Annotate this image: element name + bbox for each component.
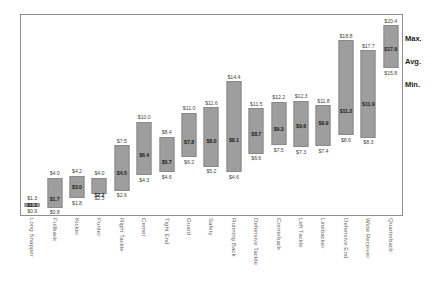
category-label-text: Punter (96, 218, 102, 236)
bar-column[interactable]: $1.3$0.9$1.1 (21, 15, 43, 215)
category-label: Defensive End (335, 218, 357, 302)
max-value-label: $4.0 (94, 170, 104, 176)
range-bar[interactable] (182, 113, 197, 158)
category-label: Quarterback (380, 218, 402, 302)
min-value-label: $6.2 (184, 159, 194, 165)
range-bar[interactable] (271, 102, 286, 146)
avg-value-label: $8.0 (206, 138, 216, 144)
category-label: Center (133, 218, 155, 302)
bar-column[interactable]: $11.5$6.6$8.7 (245, 15, 267, 215)
category-label-text: Defensive End (343, 218, 349, 258)
avg-value-label: $11.2 (340, 108, 352, 114)
min-value-label: $0.9 (27, 208, 37, 214)
bar-column[interactable]: $4.0$0.8$1.7 (43, 15, 65, 215)
category-label: Defensive Tackle (245, 218, 267, 302)
category-label-text: Fullback (52, 218, 58, 241)
min-value-label: $4.3 (139, 177, 149, 183)
category-label-text: Tight End (164, 218, 170, 244)
bar-column[interactable]: $11.8$7.4$9.9 (312, 15, 334, 215)
min-value-label: $7.3 (296, 149, 306, 155)
category-label: Guard (178, 218, 200, 302)
max-value-label: $10.0 (138, 114, 151, 120)
max-value-label: $7.5 (117, 138, 127, 144)
avg-value-label: $9.6 (296, 123, 306, 129)
bar-column[interactable]: $8.4$4.6$5.7 (155, 15, 177, 215)
category-label: Kicker (66, 218, 88, 302)
category-label-text: Guard (186, 218, 192, 235)
max-value-label: $11.6 (205, 100, 217, 106)
category-label-text: Quarterback (388, 218, 394, 252)
bar-column[interactable]: $10.0$4.3$6.4 (133, 15, 155, 215)
legend-item-max: Max. (405, 34, 435, 43)
range-bar[interactable] (226, 81, 241, 172)
max-value-label: $11.0 (183, 105, 195, 111)
chart-root: $1.3$0.9$1.1$4.0$0.8$1.7$4.2$1.8$3.0$4.0… (0, 0, 435, 303)
max-value-label: $11.8 (317, 98, 329, 104)
bar-column[interactable]: $17.7$8.3$11.9 (357, 15, 379, 215)
min-value-label: $1.8 (72, 200, 82, 206)
range-bar[interactable] (47, 178, 62, 208)
bar-column[interactable]: $14.4$4.6$8.1 (223, 15, 245, 215)
category-label-text: Kicker (74, 218, 80, 235)
category-label-text: Right Tackle (119, 218, 125, 252)
max-value-label: $4.0 (50, 170, 60, 176)
max-value-label: $12.3 (295, 93, 308, 99)
min-value-label: $8.3 (363, 139, 373, 145)
avg-value-label: $6.4 (139, 152, 149, 158)
avg-value-label: $11.9 (362, 101, 374, 107)
min-value-label: $4.6 (162, 174, 172, 180)
bar-column[interactable]: $20.4$15.8$17.9 (380, 15, 402, 215)
range-bar[interactable] (137, 122, 152, 175)
avg-value-label: $4.5 (117, 170, 127, 176)
avg-value-label: $1.7 (50, 196, 60, 202)
min-value-label: $2.6 (117, 192, 127, 198)
min-value-label: $6.6 (251, 155, 261, 161)
category-label: Linebacker (312, 218, 334, 302)
bar-column[interactable]: $12.2$7.5$9.3 (267, 15, 289, 215)
range-bar[interactable] (114, 145, 129, 191)
category-label: Tight End (155, 218, 177, 302)
category-label-text: Running Back (231, 218, 237, 257)
min-value-label: $0.8 (50, 209, 60, 215)
bar-column[interactable]: $4.0$2.3$2.2 (88, 15, 110, 215)
avg-value-label: $3.0 (72, 184, 82, 190)
avg-value-label: $8.1 (229, 137, 239, 143)
category-label-text: Long Snapper (29, 218, 35, 257)
avg-value-label: $8.7 (251, 131, 261, 137)
min-value-label: $5.2 (206, 168, 216, 174)
max-value-label: $4.2 (72, 168, 82, 174)
bar-column[interactable]: $11.0$6.2$7.8 (178, 15, 200, 215)
max-value-label: $18.8 (340, 33, 353, 39)
range-bar[interactable] (361, 50, 376, 137)
category-label: Cornerback (267, 218, 289, 302)
max-value-label: $8.4 (162, 129, 172, 135)
bar-column[interactable]: $7.5$2.6$4.5 (111, 15, 133, 215)
category-label: Long Snapper (21, 218, 43, 302)
legend-item-avg: Avg. (405, 57, 435, 66)
chart-legend: Max. Avg. Min. (405, 34, 435, 103)
bar-column[interactable]: $11.6$5.2$8.0 (200, 15, 222, 215)
avg-value-label: $1.1 (27, 202, 37, 208)
category-label-text: Center (141, 218, 147, 237)
bar-column[interactable]: $12.3$7.3$9.6 (290, 15, 312, 215)
max-value-label: $14.4 (227, 74, 240, 80)
min-value-label: $7.4 (319, 148, 329, 154)
bar-column[interactable]: $4.2$1.8$3.0 (66, 15, 88, 215)
legend-item-min: Min. (405, 80, 435, 89)
avg-value-label: $9.3 (274, 126, 284, 132)
avg-value-label: $7.8 (184, 139, 194, 145)
bars-area: $1.3$0.9$1.1$4.0$0.8$1.7$4.2$1.8$3.0$4.0… (21, 15, 402, 215)
range-bar[interactable] (338, 40, 353, 135)
category-axis: Long SnapperFullbackKickerPunterRight Ta… (21, 218, 402, 302)
category-label-text: Safety (208, 218, 214, 236)
category-label-text: Defensive Tackle (253, 218, 259, 265)
min-value-label: $4.6 (229, 174, 239, 180)
category-label: Safety (200, 218, 222, 302)
max-value-label: $20.4 (384, 18, 397, 24)
category-label-text: Wide Receiver (365, 218, 371, 258)
range-bar[interactable] (159, 137, 174, 172)
category-label: Wide Receiver (357, 218, 379, 302)
min-value-label: $15.8 (384, 70, 397, 76)
bar-column[interactable]: $18.8$8.6$11.2 (335, 15, 357, 215)
category-label: Left Tackle (290, 218, 312, 302)
